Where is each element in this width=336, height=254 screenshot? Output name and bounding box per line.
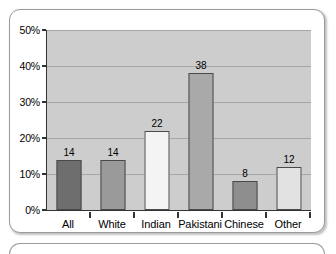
bar[interactable]: [57, 160, 82, 210]
bar-slot: 14: [47, 30, 91, 210]
bar-value-label: 22: [152, 118, 163, 129]
y-axis-tick: [42, 29, 46, 31]
bar-slot: 14: [91, 30, 135, 210]
x-axis-labels: AllWhiteIndianPakistaniChineseOther: [46, 218, 310, 234]
y-axis-tick-label: 10%: [0, 168, 40, 180]
bar[interactable]: [101, 160, 126, 210]
bar[interactable]: [145, 131, 170, 210]
x-axis-category-label: White: [98, 218, 126, 230]
next-panel-sliver: [9, 243, 325, 254]
bar-value-label: 14: [64, 147, 75, 158]
bar-value-label: 38: [196, 60, 207, 71]
y-axis-tick: [42, 65, 46, 67]
x-axis-category-label: Other: [274, 218, 301, 230]
plot-area: 14142238812: [46, 30, 311, 211]
bar-value-label: 14: [108, 147, 119, 158]
bar-slot: 8: [223, 30, 267, 210]
bar-value-label: 8: [242, 168, 247, 179]
y-axis-tick: [42, 173, 46, 175]
x-axis-category-label: Chinese: [224, 218, 264, 230]
y-axis-tick: [42, 137, 46, 139]
x-axis-category-label: Indian: [141, 218, 170, 230]
bar-slot: 38: [179, 30, 223, 210]
y-axis-tick-label: 0%: [0, 204, 40, 216]
x-axis-category-label: Pakistani: [178, 218, 222, 230]
y-axis-tick-label: 20%: [0, 132, 40, 144]
bar-series: 14142238812: [47, 30, 311, 210]
bar[interactable]: [277, 167, 302, 210]
y-axis-tick-label: 50%: [0, 24, 40, 36]
y-axis-tick-label: 40%: [0, 60, 40, 72]
bar-value-label: 12: [284, 154, 295, 165]
y-axis-tick: [42, 101, 46, 103]
bar[interactable]: [233, 181, 258, 210]
y-axis-tick-label: 30%: [0, 96, 40, 108]
y-axis-tick: [42, 209, 46, 211]
bar-slot: 22: [135, 30, 179, 210]
x-axis-category-label: All: [62, 218, 74, 230]
bar-slot: 12: [267, 30, 311, 210]
bar[interactable]: [189, 73, 214, 210]
